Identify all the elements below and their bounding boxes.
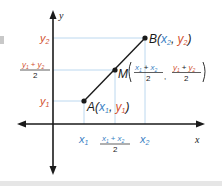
y-tick-mid: y1+y2 2 — [20, 60, 50, 80]
point-m-label: M x1+x2 2 , y1+y2 2 — [118, 62, 205, 83]
point-a-label: A(x1, y1) — [86, 100, 130, 114]
bottom-border-strip — [0, 181, 222, 186]
svg-text:M: M — [118, 67, 128, 81]
point-a — [81, 98, 86, 103]
x-tick-x2: x2 — [139, 133, 150, 146]
y-axis-arrow-down-icon — [50, 166, 57, 175]
point-b — [142, 35, 147, 40]
y-tick-y1: y1 — [39, 95, 50, 108]
svg-text:,: , — [164, 72, 166, 81]
point-m — [112, 67, 117, 72]
m-right-paren — [203, 62, 205, 82]
svg-text:2: 2 — [33, 71, 38, 80]
y-axis-arrow-up-icon — [50, 10, 57, 19]
point-b-label: B(x2, y2) — [149, 32, 192, 46]
x-tick-mid: x1+x2 2 — [100, 134, 130, 154]
svg-text:y1+y2: y1+y2 — [172, 63, 195, 73]
x-axis-arrow-right-icon — [196, 121, 205, 128]
midpoint-diagram: y x B(x2, y2) A(x1, y1) M x1+x2 2 , y1+y… — [0, 0, 222, 186]
y-axis-label: y — [58, 10, 64, 21]
x-axis-label: x — [194, 134, 200, 145]
edge-mark — [0, 36, 4, 44]
svg-text:y1+y2: y1+y2 — [21, 60, 44, 70]
svg-text:2: 2 — [146, 74, 151, 83]
x-tick-x1: x1 — [78, 133, 89, 146]
y-tick-y2: y2 — [39, 32, 50, 45]
svg-text:2: 2 — [113, 145, 118, 154]
svg-text:x1+x2: x1+x2 — [101, 134, 124, 144]
svg-text:2: 2 — [184, 74, 189, 83]
svg-text:x1+x2: x1+x2 — [134, 63, 157, 73]
x-axis-arrow-left-icon — [17, 121, 26, 128]
m-left-paren — [129, 62, 131, 82]
